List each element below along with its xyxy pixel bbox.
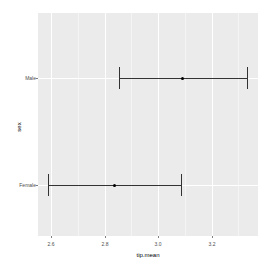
x-tick-3.0 bbox=[158, 236, 159, 238]
x-tick-2.6 bbox=[51, 236, 52, 238]
y-tick-label-male: Male bbox=[25, 75, 36, 81]
plot-panel bbox=[38, 13, 258, 236]
point-female-mean bbox=[113, 184, 116, 187]
minor-gridline bbox=[78, 13, 79, 236]
errorbar-male-lower-cap bbox=[119, 67, 120, 89]
major-gridline-3.0 bbox=[158, 13, 159, 236]
x-axis-title: tip.mean bbox=[136, 252, 159, 258]
errorbar-male-upper-cap bbox=[247, 67, 248, 89]
point-male-mean bbox=[181, 77, 184, 80]
x-tick-label-2.8: 2.8 bbox=[102, 241, 109, 247]
minor-gridline bbox=[131, 13, 132, 236]
minor-gridline bbox=[185, 13, 186, 236]
major-gridline-2.8 bbox=[105, 13, 106, 236]
x-tick-label-2.6: 2.6 bbox=[48, 241, 55, 247]
major-gridline-2.6 bbox=[51, 13, 52, 236]
x-tick-label-3.0: 3.0 bbox=[155, 241, 162, 247]
y-tick-male bbox=[36, 78, 38, 79]
errorbar-female-lower-cap bbox=[48, 174, 49, 196]
y-axis-title: sex bbox=[16, 122, 22, 131]
x-tick-3.2 bbox=[212, 236, 213, 238]
x-tick-2.8 bbox=[105, 236, 106, 238]
y-tick-label-female: Female bbox=[19, 182, 36, 188]
major-gridline-3.2 bbox=[212, 13, 213, 236]
minor-gridline bbox=[238, 13, 239, 236]
x-tick-label-3.2: 3.2 bbox=[209, 241, 216, 247]
errorbar-female-upper-cap bbox=[181, 174, 182, 196]
